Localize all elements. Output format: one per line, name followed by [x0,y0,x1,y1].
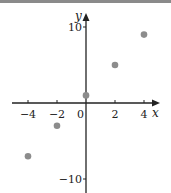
data-point [54,123,61,130]
data-point [25,153,32,160]
y-axis-arrow-icon [83,13,90,21]
x-tick-label: 2 [112,108,119,121]
data-point [83,92,90,99]
x-tick-label: 4 [141,108,148,121]
data-point [141,31,148,38]
y-tick-label: 10 [68,21,82,34]
x-tick-label: −4 [20,108,36,121]
y-tick-label: −10 [59,173,82,186]
x-axis-label: x [152,106,159,120]
data-point [112,62,119,69]
x-tick-label: −2 [49,108,65,121]
x-tick-label: 0 [77,108,84,121]
scatter-chart: x y −4−2024 10−10 [0,0,171,193]
y-axis: y [74,9,90,193]
